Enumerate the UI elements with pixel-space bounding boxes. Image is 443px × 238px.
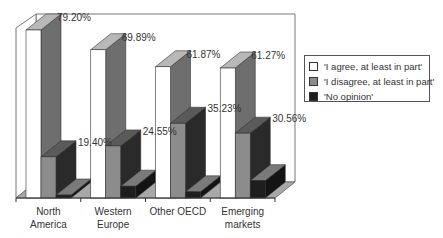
category-label: Europe — [97, 219, 130, 230]
value-label: 79.20% — [57, 12, 91, 23]
value-label: 19.40% — [78, 137, 112, 148]
value-label: 30.56% — [272, 113, 306, 124]
bar-chart-3d: 79.20%19.40%69.89%24.55%61.87%35.23%61.2… — [0, 0, 443, 238]
value-label: 69.89% — [122, 32, 156, 43]
category-label: America — [30, 219, 67, 230]
legend-label-agree: 'I agree, at least in part' — [324, 61, 422, 72]
value-label: 61.87% — [187, 49, 221, 60]
value-label: 61.27% — [251, 50, 285, 61]
category-label: Other OECD — [150, 206, 207, 217]
category-label: Emerging — [221, 206, 264, 217]
legend-item-no-opinion: 'No opinion' — [309, 90, 373, 102]
legend-swatch-no-opinion — [309, 92, 318, 101]
value-label: 35.23% — [208, 103, 242, 114]
category-label: Western — [95, 206, 132, 217]
category-label: North — [36, 206, 60, 217]
category-label: markets — [225, 219, 261, 230]
legend-swatch-agree — [309, 62, 318, 71]
legend-item-disagree: 'I disagree, at least in part' — [309, 75, 434, 87]
legend-label-disagree: 'I disagree, at least in part' — [324, 76, 434, 87]
legend-item-agree: 'I agree, at least in part' — [309, 60, 422, 72]
legend-label-no-opinion: 'No opinion' — [324, 91, 373, 102]
legend-swatch-disagree — [309, 77, 318, 86]
x-axis: NorthAmericaWesternEuropeOther OECDEmerg… — [16, 198, 275, 230]
legend: 'I agree, at least in part' 'I disagree,… — [304, 55, 430, 102]
value-label: 24.55% — [143, 126, 177, 137]
